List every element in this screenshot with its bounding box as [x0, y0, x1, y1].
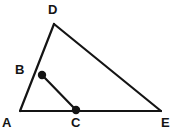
vertex-label-B: B [15, 63, 24, 76]
segment-B-C [42, 75, 76, 110]
segment-D-E [54, 24, 161, 111]
point-marker-B [38, 71, 46, 79]
vertex-label-C: C [71, 116, 80, 129]
vertex-label-A: A [2, 116, 11, 129]
vertex-label-D: D [48, 3, 57, 16]
segment-A-D [20, 24, 54, 111]
geometry-figure: D B A C E [0, 0, 174, 134]
geometry-canvas [0, 0, 174, 134]
vertex-label-E: E [161, 116, 170, 129]
point-marker-C [72, 106, 80, 114]
